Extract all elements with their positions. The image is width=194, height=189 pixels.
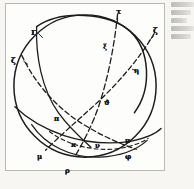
label-zeta-right: ζ xyxy=(153,26,158,34)
label-tau-top: τ xyxy=(116,7,121,15)
label-pi-left: π xyxy=(54,115,59,122)
figure-plate: τ Γ ζ ζ ξ η ϑ π κ ν π φ μ ρ xyxy=(5,3,165,171)
margin-text-line xyxy=(171,34,191,39)
oblique-great-circle-2 xyxy=(37,27,91,148)
label-mu: μ xyxy=(37,153,42,160)
scanned-page: τ Γ ζ ζ ξ η ϑ π κ ν π φ μ ρ xyxy=(0,0,194,189)
label-gamma: Γ xyxy=(31,28,37,36)
label-xi: ξ xyxy=(103,43,107,50)
ecliptic-dashed-arc xyxy=(22,55,137,149)
margin-text-fragment xyxy=(168,2,194,66)
margin-text-line xyxy=(171,18,187,23)
meridian-dashed-arc xyxy=(75,14,117,156)
label-eta-right: η xyxy=(134,67,139,74)
label-nu: ν xyxy=(95,142,100,149)
label-kappa: κ xyxy=(71,141,76,148)
margin-text-line xyxy=(171,26,194,31)
label-zeta-left: ζ xyxy=(11,56,16,64)
label-theta-center: ϑ xyxy=(104,99,110,106)
margin-text-line xyxy=(171,10,191,15)
label-pi-right: π xyxy=(125,137,130,144)
oblique-great-circle-1 xyxy=(37,15,147,112)
margin-text-line xyxy=(171,2,194,7)
label-phi: φ xyxy=(125,153,131,160)
sphere-diagram xyxy=(6,4,164,170)
label-rho: ρ xyxy=(65,167,70,174)
